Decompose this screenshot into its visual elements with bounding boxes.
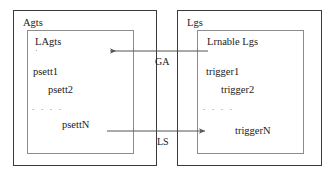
arrow-label-ga: GA bbox=[155, 56, 169, 67]
arrow-label-ls: LS bbox=[157, 136, 169, 147]
arrow-layer bbox=[0, 0, 335, 183]
diagram-canvas: Agts LAgts psett1 psett2 . . . . psettN … bbox=[0, 0, 335, 183]
